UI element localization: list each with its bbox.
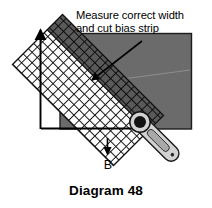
figure-caption: Diagram 48 [0, 183, 212, 198]
annotation-label: Measure correct width and cut bias strip [76, 9, 210, 34]
cutter-blade [134, 116, 146, 128]
point-label-b: B [98, 159, 118, 172]
diagram-figure: Measure correct width and cut bias strip… [0, 0, 212, 208]
